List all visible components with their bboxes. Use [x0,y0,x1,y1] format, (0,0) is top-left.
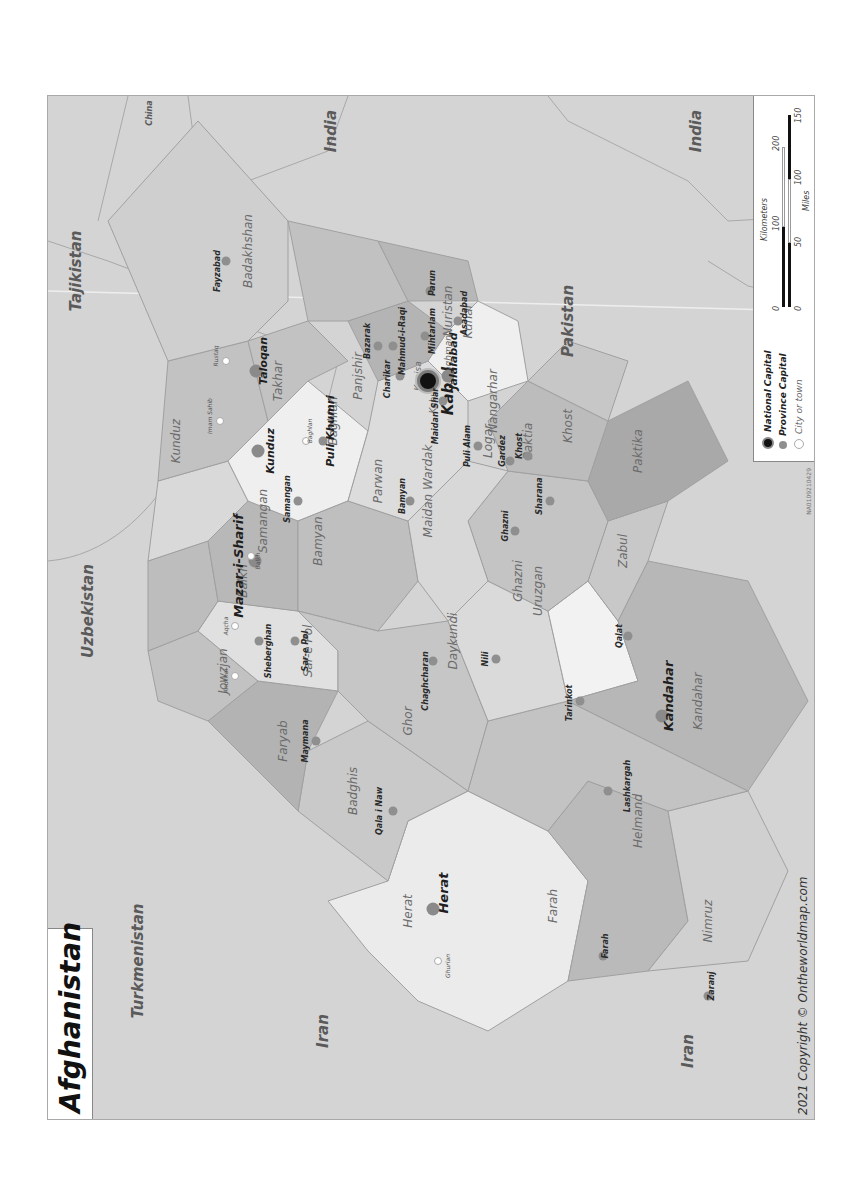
label-province-zabul: Zabul [617,534,629,568]
scale-mi-tick: 0 [794,306,803,311]
legend-city-or-town: City or town [794,379,804,449]
scale-bar: Kilometers 0 100 200 0 50 100 150 Miles [760,111,810,311]
town-balkh: Balkh [255,553,261,570]
city-ghazni: Ghazni [502,511,510,542]
scale-km-tick: 200 [772,136,781,151]
city-fayzabad: Fayzabad [214,250,222,292]
label-china: China [146,100,154,125]
legend-province-capital: Province Capital [778,353,788,449]
label-province-takhar: Takhar [272,361,284,401]
city-maymana: Maymana [302,719,310,762]
label-province-nangarhar: Nangarhar [487,369,499,433]
label-india-2: India [689,110,704,152]
legend-label: City or town [794,379,804,434]
city-mihtarlam: Mihtarlam [429,308,437,354]
town-marker [434,957,442,965]
legend-label: Province Capital [778,353,788,436]
town-baghlan: Baghlan [307,419,313,444]
province-capital-marker [624,632,633,641]
city-parun: Parun [429,270,437,296]
town-rustaq: Rustaq [213,346,219,367]
scale-mi-tick: 100 [794,170,803,185]
map-frame: Turkmenistan Uzbekistan Tajikistan China… [47,95,815,1120]
map-svg [48,96,815,1120]
label-province-daykundi: Daykundi [447,613,459,670]
label-province-khost: Khost [562,409,574,443]
city-jalalabad: Jalalabad [448,332,459,389]
town-andkhoi: Andkhoi [223,669,229,693]
label-province-ghazni: Ghazni [512,560,524,602]
town-marker [231,622,239,630]
city-sheberghan: Sheberghan [265,624,273,679]
label-province-farah: Farah [547,889,559,923]
province-capital-marker [492,655,501,664]
scale-km-tick: 0 [772,306,781,311]
city-bazarak: Bazarak [364,323,372,359]
province-capital-marker [294,497,303,506]
legend-national-capital: National Capital [762,350,774,449]
label-province-samangan: Samangan [257,489,269,553]
province-capital-marker [222,257,231,266]
city-sar-e-pol: Sar-e Pol [302,631,310,672]
label-province-panjshir: Panjshir [352,352,364,400]
province-capital-marker [604,787,613,796]
city-farah: Farah [602,934,610,959]
city-sharana: Sharana [536,477,544,514]
province-capital-marker [312,737,321,746]
province-capital-icon [779,441,787,449]
legend: National Capital Province Capital City o… [753,96,815,462]
city-kunduz: Kunduz [265,428,276,474]
map-canvas: Turkmenistan Uzbekistan Tajikistan China… [48,96,815,1120]
town-icon [794,439,804,449]
label-iran-1: Iran [316,1014,331,1048]
city-tarinkot: Tarinkot [566,685,574,722]
province-capital-marker [291,637,300,646]
national-capital-icon [762,437,774,449]
scale-mi-tick: 50 [794,237,803,247]
city-qalat: Qalat [616,624,624,648]
label-province-parwan: Parwan [372,459,384,503]
city-kandahar: Kandahar [662,661,675,732]
label-province-bamyan: Bamyan [312,516,324,565]
city-charikar: Charikar [384,360,392,398]
province-capital-marker [511,527,520,536]
label-pakistan: Pakistan [561,285,576,357]
province-capital-marker [389,807,398,816]
label-province-ghor: Ghor [402,706,414,735]
city-samangan: Samangan [284,475,292,522]
label-uzbekistan: Uzbekistan [81,564,96,658]
city-taloqan: Taloqan [258,337,269,385]
city-qala-i-naw: Qala i Naw [376,787,384,835]
town-marker [231,672,239,680]
city-khost: Khost [516,433,524,459]
label-province-nimruz: Nimruz [702,900,714,943]
scale-km-label: Kilometers [760,198,769,241]
city-asadabad: Asadabad [461,291,469,335]
city-chaghcharan: Chaghcharan [422,651,430,710]
city-herat: Herat [437,872,450,913]
label-province-nuristan: Nuristan [442,286,454,337]
province-capital-marker [255,637,264,646]
label-province-maidan-wardak: Maidan Wardak [422,445,434,538]
copyright-text: 2021 Copyright © Ontheworldmap.com [796,876,810,1115]
scale-km-tick: 100 [772,216,781,231]
province-capital-marker [576,697,585,706]
town-imam-sahib: Imam Sahib [207,398,213,434]
label-province-badghis: Badghis [347,767,359,815]
label-province-badakhshan: Badakhshan [242,214,254,288]
province-capital-marker [474,442,483,451]
label-iran-2: Iran [681,1034,696,1068]
label-tajikistan: Tajikistan [69,231,84,312]
label-province-kandahar: Kandahar [692,672,704,729]
city-lashkargah: Lashkargah [624,760,632,812]
city-gardez: Gardez [499,435,507,467]
city-nili: Nili [482,652,490,667]
town-marker [216,417,224,425]
scale-mi-label: Miles [802,191,811,211]
label-province-helmand: Helmand [632,794,644,848]
label-province-faryab: Faryab [277,720,289,761]
label-india-1: India [324,110,339,152]
city-mazar-i-sharif: Mazar-i-Sharif [232,514,245,618]
label-turkmenistan: Turkmenistan [131,904,146,1019]
province-capital-marker [374,342,383,351]
